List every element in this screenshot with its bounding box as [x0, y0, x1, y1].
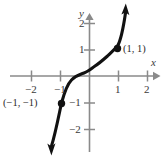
y-tick-label--2: −2	[69, 124, 81, 135]
cubic-curve	[52, 13, 126, 146]
x-tick-label-2: 2	[144, 84, 150, 95]
point-1-1	[114, 45, 121, 52]
x-axis-label: x	[151, 57, 156, 68]
y-tick-label-1: 1	[79, 44, 85, 55]
graph-figure: y x −2 −1 1 2 2 1 −1 −2 (1, 1) (−1, −1)	[0, 0, 163, 158]
x-axis-arrow-icon	[153, 72, 161, 80]
point-label-neg1-neg1: (−1, −1)	[3, 98, 38, 109]
point-neg1-neg1	[58, 100, 65, 107]
x-tick-label--2: −2	[25, 84, 37, 95]
y-tick-label-2: 2	[79, 18, 85, 29]
x-tick-label--1: −1	[54, 84, 66, 95]
y-axis-arrow-icon	[85, 13, 93, 20]
y-tick-label--1: −1	[69, 97, 81, 108]
x-tick-label-1: 1	[115, 84, 121, 95]
point-label-1-1: (1, 1)	[123, 44, 146, 55]
